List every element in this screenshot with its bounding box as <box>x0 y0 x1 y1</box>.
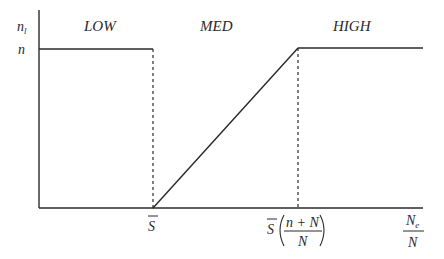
region-label-high: HIGH <box>332 18 372 34</box>
svg-text:n + N: n + N <box>286 215 319 230</box>
x-tick-threshold: S n + N N <box>267 215 324 249</box>
svg-text:N: N <box>297 234 308 249</box>
svg-text:Ne: Ne <box>405 213 419 230</box>
x-axis-label: Ne N <box>403 213 424 250</box>
svg-text:S: S <box>148 219 155 234</box>
svg-text:S: S <box>267 222 274 237</box>
y-axis-label: nl <box>17 19 27 36</box>
piecewise-diagram: nl n LOW MED HIGH S S n + N N Ne N <box>0 0 444 259</box>
med-segment <box>153 48 298 208</box>
x-tick-s-bar: S <box>148 216 158 234</box>
region-label-low: LOW <box>83 18 117 34</box>
y-tick-label: n <box>18 42 25 57</box>
svg-text:N: N <box>407 235 418 250</box>
left-paren <box>280 215 284 246</box>
region-label-med: MED <box>199 18 233 34</box>
